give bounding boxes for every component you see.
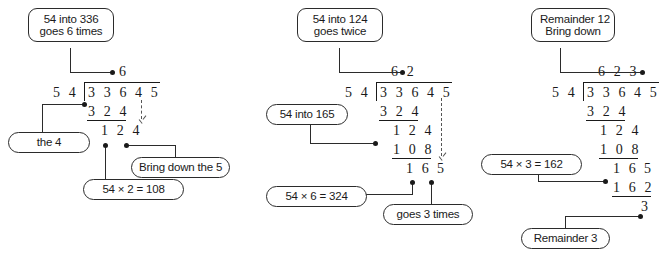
connector-dot-multiply	[410, 180, 415, 185]
callout-bring-down-the-5: Bring down the 5	[131, 157, 230, 178]
divisor-digits: 5 4	[53, 85, 78, 101]
connector-dot-into-165	[373, 141, 378, 146]
division-bracket-vertical	[376, 82, 377, 101]
connector-dot-remainder	[638, 214, 643, 219]
connector-vertical-top	[70, 48, 71, 73]
connector-dot-the-4	[82, 102, 87, 107]
connector-dot-quotient	[400, 70, 405, 75]
subtract-rule-1	[87, 120, 126, 121]
division-bracket-vertical	[84, 82, 85, 101]
connector-horizontal-multiply	[366, 194, 413, 195]
connector-dot-multiply	[103, 143, 108, 148]
connector-horizontal-multiply	[538, 181, 605, 182]
connector-vertical-multiply	[105, 145, 106, 180]
connector-horizontal-top	[560, 72, 642, 73]
final-remainder-digit: 3	[641, 199, 651, 215]
subtract-rule-1	[379, 120, 418, 121]
callout-line-2: goes 6 times	[37, 25, 105, 38]
bring-down-dashed-line	[141, 100, 142, 119]
brought-down-digit: 5	[644, 161, 654, 177]
connector-horizontal-the-4	[42, 104, 84, 105]
connector-dot-quotient	[640, 70, 645, 75]
callout-line-1: Remainder 12	[540, 13, 606, 26]
remainder-line-2: 1 6	[613, 161, 638, 177]
subtract-rule-1	[586, 120, 625, 121]
callout-line-1: 54 into 124	[306, 13, 374, 26]
connector-dot-quotient	[110, 70, 115, 75]
connector-horizontal-bring-down	[126, 145, 176, 146]
bring-down-dashed-line	[441, 98, 442, 156]
connector-dot-goes-3	[429, 180, 434, 185]
callout-54-into-336: 54 into 336 goes 6 times	[28, 8, 114, 42]
subtract-line-3: 1 6 2	[613, 180, 654, 196]
remainder-line-1: 1 2 4	[101, 123, 142, 139]
division-step-panel-3: Remainder 12 Bring down 6 2 3 5 4 3 3 6 …	[455, 0, 665, 254]
callout-54-into-165: 54 into 165	[266, 104, 348, 125]
connector-horizontal-top	[70, 72, 112, 73]
connector-dot-bring-down	[124, 143, 129, 148]
callout-goes-3-times: goes 3 times	[383, 204, 473, 225]
subtract-line-1: 3 2 4	[380, 104, 421, 120]
callout-54-into-124: 54 into 124 goes twice	[297, 8, 383, 42]
division-step-panel-2: 54 into 124 goes twice 6 2 5 4 3 3 6 4 5…	[240, 0, 455, 254]
remainder-line-2: 1 6	[406, 161, 431, 177]
callout-line-2: goes twice	[306, 25, 374, 38]
division-bracket-horizontal	[583, 82, 659, 83]
callout-remainder-12: Remainder 12 Bring down	[531, 8, 615, 42]
remainder-line-1: 1 2 4	[393, 123, 434, 139]
subtract-rule-3	[612, 196, 651, 197]
connector-horizontal-top	[339, 72, 402, 73]
division-bracket-vertical	[583, 82, 584, 101]
connector-vertical-goes-3	[431, 182, 432, 205]
callout-line-2: Bring down	[540, 25, 606, 38]
subtract-rule-2	[392, 158, 431, 159]
subtract-line-1: 3 2 4	[587, 104, 628, 120]
callout-line-1: 54 into 336	[37, 13, 105, 26]
divisor-digits: 5 4	[552, 85, 577, 101]
dividend-digits: 3 3 6 4 5	[88, 85, 160, 101]
dividend-digits: 3 3 6 4 5	[587, 85, 659, 101]
remainder-line-1: 1 2 4	[600, 123, 641, 139]
callout-remainder-3: Remainder 3	[521, 228, 610, 249]
subtract-line-2: 1 0 8	[393, 142, 434, 158]
callout-54-times-2: 54 × 2 = 108	[83, 179, 184, 200]
subtract-line-2: 1 0 8	[600, 142, 641, 158]
divisor-digits: 5 4	[345, 85, 370, 101]
connector-horizontal-remainder	[565, 216, 640, 217]
connector-vertical-top	[339, 48, 340, 73]
quotient-digits: 6	[119, 64, 129, 80]
division-step-panel-1: 54 into 336 goes 6 times 6 5 4 3 3 6 4 5…	[0, 0, 240, 254]
callout-54-times-6: 54 × 6 = 324	[266, 186, 367, 207]
callout-54-times-3: 54 × 3 = 162	[481, 154, 582, 175]
callout-the-4: the 4	[8, 132, 90, 153]
connector-vertical-the-4	[42, 104, 43, 133]
subtract-rule-2	[599, 158, 638, 159]
subtract-line-1: 3 2 4	[88, 104, 129, 120]
division-bracket-horizontal	[84, 82, 160, 83]
connector-horizontal-into-165	[310, 143, 375, 144]
connector-dot-multiply	[603, 179, 608, 184]
brought-down-digit: 5	[437, 161, 447, 177]
connector-vertical-top	[560, 48, 561, 73]
division-bracket-horizontal	[376, 82, 452, 83]
